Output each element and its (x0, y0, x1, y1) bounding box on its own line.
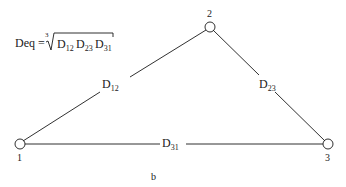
node-label-3: 3 (325, 152, 330, 163)
node-3-circle-icon (323, 139, 333, 149)
node-2-circle-icon (205, 22, 215, 32)
formula-equals: = (38, 36, 45, 50)
formula-term-3: D31 (95, 37, 112, 53)
edge-label-d31: D31 (162, 136, 179, 152)
formula-term-2: D23 (76, 37, 93, 53)
deq-formula: Deq = 3 D12 D23 D31 (15, 31, 113, 53)
figure-caption: b (151, 171, 156, 182)
edge-2-3-upper (213, 30, 259, 75)
edge-label-d12: D12 (102, 77, 119, 93)
edge-label-d23: D23 (259, 77, 276, 93)
node-label-2: 2 (207, 8, 212, 19)
edge-2-3-lower (275, 92, 325, 141)
formula-root-index: 3 (45, 31, 49, 39)
node-1-circle-icon (15, 139, 25, 149)
edge-1-2-lower (23, 92, 100, 141)
node-label-1: 1 (17, 152, 22, 163)
formula-term-1: D12 (57, 37, 74, 53)
triangle-diagram: Deq = 3 D12 D23 D31 D12 D23 D31 1 2 3 b (0, 0, 346, 187)
formula-lhs: Deq (15, 36, 35, 50)
edge-1-2-upper (130, 30, 206, 77)
